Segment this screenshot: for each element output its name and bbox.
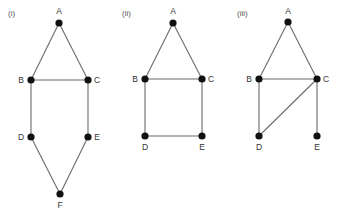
- node-i-a: [55, 19, 62, 26]
- node-label-iii-b: B: [246, 74, 252, 84]
- node-iii-b: [255, 75, 262, 82]
- node-label-iii-c: C: [323, 74, 329, 84]
- graph-iii: ABCDE (iii): [237, 6, 329, 152]
- node-label-i-a: A: [56, 6, 62, 16]
- node-i-e: [84, 133, 91, 140]
- graph-ii: ABCDE (ii): [122, 6, 214, 152]
- node-i-f: [56, 190, 63, 197]
- edge-iii-cd: [259, 79, 317, 136]
- node-label-iii-a: A: [285, 6, 291, 16]
- node-iii-d: [255, 132, 262, 139]
- node-i-d: [27, 133, 34, 140]
- graph-ii-label: (ii): [122, 9, 131, 18]
- graph-diagram-canvas: ABCDEF (i) ABCDE (ii) ABCDE (iii): [0, 0, 346, 218]
- edge-iii-ab: [259, 22, 288, 79]
- edge-i-ef: [60, 137, 88, 194]
- node-i-b: [27, 76, 34, 83]
- graph-ii-edges: [145, 23, 202, 136]
- node-iii-e: [313, 132, 320, 139]
- node-label-iii-d: D: [256, 142, 262, 152]
- node-label-i-b: B: [18, 75, 24, 85]
- node-label-ii-b: B: [132, 74, 138, 84]
- node-iii-a: [284, 18, 291, 25]
- node-ii-e: [198, 132, 205, 139]
- node-label-i-e: E: [94, 132, 100, 142]
- node-label-i-f: F: [57, 200, 62, 210]
- edge-i-df: [31, 137, 60, 194]
- edge-i-ac: [59, 23, 88, 80]
- node-label-ii-c: C: [208, 74, 214, 84]
- node-label-iii-e: E: [314, 142, 320, 152]
- node-i-c: [84, 76, 91, 83]
- node-ii-c: [198, 75, 205, 82]
- node-label-ii-a: A: [170, 6, 176, 16]
- graph-iii-label: (iii): [237, 9, 248, 18]
- graph-iii-edges: [259, 22, 317, 136]
- edge-ii-ab: [145, 23, 173, 79]
- node-label-i-c: C: [94, 75, 100, 85]
- node-label-ii-e: E: [199, 142, 205, 152]
- node-ii-d: [141, 132, 148, 139]
- graph-i-label: (i): [8, 9, 15, 18]
- node-iii-c: [313, 75, 320, 82]
- edge-iii-ac: [288, 22, 317, 79]
- edge-i-ab: [31, 23, 59, 80]
- graph-i-edges: [31, 23, 88, 194]
- node-ii-b: [141, 75, 148, 82]
- graph-i: ABCDEF (i): [8, 6, 100, 210]
- node-ii-a: [169, 19, 176, 26]
- edge-ii-ac: [173, 23, 202, 79]
- node-label-i-d: D: [18, 132, 24, 142]
- node-label-ii-d: D: [142, 142, 148, 152]
